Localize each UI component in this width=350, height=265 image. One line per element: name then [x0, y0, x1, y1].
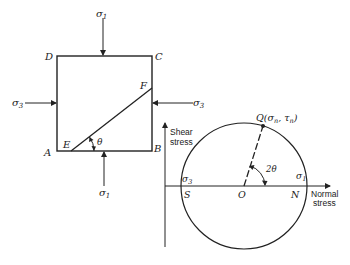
point-label-s: S [184, 189, 191, 200]
radius-oq [244, 126, 263, 186]
sigma1-label: σ1 [296, 171, 306, 183]
y-axis-label-2: stress [170, 137, 193, 147]
mohr-circle-plot: Shear stress Normal stress S O N σ3 σ1 2… [165, 112, 339, 249]
point-q-dot [261, 124, 265, 128]
y-axis-label: Shear [170, 127, 193, 137]
element-square [57, 56, 152, 151]
stress-element: D C A B E F θ σ1 σ1 σ3 σ3 [12, 8, 205, 200]
inclined-plane-ef [71, 88, 152, 151]
top-stress-label: σ1 [96, 8, 107, 21]
right-stress-label: σ3 [193, 97, 205, 110]
point-label-n: N [290, 189, 300, 200]
corner-label-d: D [44, 51, 53, 62]
point-q-label: Q(σn, τn) [256, 112, 298, 125]
mohr-circle-diagram: D C A B E F θ σ1 σ1 σ3 σ3 Shear stress N… [0, 0, 350, 265]
sigma3-label: σ3 [182, 174, 192, 186]
bottom-stress-label: σ1 [99, 187, 110, 200]
theta-arrowhead-icon [89, 137, 94, 142]
point-label-e: E [62, 139, 71, 150]
theta-label: θ [97, 137, 103, 147]
corner-label-c: C [155, 51, 163, 62]
left-stress-label: σ3 [12, 97, 24, 110]
x-axis-label-2: stress [313, 198, 336, 208]
point-label-o: O [238, 189, 246, 200]
corner-label-a: A [43, 147, 51, 158]
two-theta-label: 2θ [265, 164, 277, 174]
corner-label-b: B [153, 143, 161, 154]
two-theta-arrowhead-icon [262, 181, 268, 187]
theta-arrowhead-icon [92, 146, 97, 151]
point-label-f: F [139, 80, 148, 91]
